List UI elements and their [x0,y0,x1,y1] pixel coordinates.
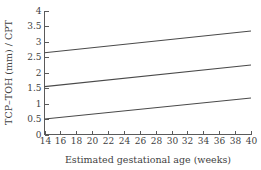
series-line-upper-centile [45,31,252,53]
y-tick-label: 3.5 [27,21,42,31]
x-tick-label: 16 [55,136,67,146]
y-axis-tick-labels: 00.511.522.533.54 [27,6,42,140]
y-axis-ticks [45,12,49,136]
x-tick-label: 18 [71,136,83,146]
x-tick-label: 20 [87,136,99,146]
y-axis-title: TCP–TOH (mm) / CPT [3,19,14,125]
y-tick-label: 0.5 [27,114,42,124]
series-line-median-centile [45,65,252,87]
x-tick-label: 32 [182,136,193,146]
x-tick-label: 30 [167,136,179,146]
chart-series-group [45,31,252,119]
x-axis-title: Estimated gestational age (weeks) [65,154,231,165]
y-tick-label: 4 [36,6,42,16]
x-tick-label: 26 [135,136,147,146]
series-line-lower-centile [45,98,252,119]
x-axis-tick-labels: 1416182022242628303234363840 [40,136,258,146]
y-tick-label: 1 [36,99,42,109]
chart-figure: 00.511.522.533.54 1416182022242628303234… [0,0,261,170]
x-tick-label: 22 [103,136,114,146]
x-tick-label: 24 [119,136,131,146]
y-tick-label: 2.5 [27,52,42,62]
x-tick-label: 40 [246,136,258,146]
y-tick-label: 2 [36,68,42,78]
x-axis-ticks [46,131,252,135]
y-tick-label: 1.5 [27,83,42,93]
x-tick-label: 14 [40,136,52,146]
y-tick-label: 3 [36,37,42,47]
x-tick-label: 36 [214,136,226,146]
x-tick-label: 38 [230,136,242,146]
x-tick-label: 28 [151,136,163,146]
line-chart-plot: 00.511.522.533.54 1416182022242628303234… [0,0,261,170]
x-tick-label: 34 [198,136,210,146]
